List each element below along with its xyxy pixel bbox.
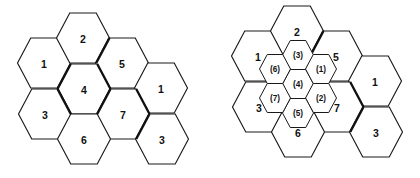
cell-label: 5 [333, 51, 339, 63]
cell-label: (3) [293, 51, 303, 60]
hexagonal-cluster-figure: 125413763 125413763(4)(3)(1)(2)(5)(7)(6) [0, 0, 420, 178]
cell-label: 2 [294, 26, 300, 38]
cell-label: 7 [334, 102, 340, 114]
cell-label: 7 [120, 109, 126, 121]
cell-label: 3 [256, 102, 262, 114]
figure-canvas: 125413763 125413763(4)(3)(1)(2)(5)(7)(6) [0, 0, 420, 178]
cell-label: 1 [255, 51, 261, 63]
cell-label: (7) [270, 94, 280, 103]
cell-label: 3 [159, 134, 165, 146]
cell-label: (6) [270, 65, 280, 74]
cell-label: 6 [81, 134, 87, 146]
cell-label: 4 [81, 84, 87, 96]
cell-label: 6 [295, 127, 301, 139]
cell-label: 1 [41, 58, 47, 70]
cell-label: 5 [119, 58, 125, 70]
cell-label: (1) [316, 65, 326, 74]
cell-label: 3 [42, 109, 48, 121]
cell-label: 1 [158, 83, 164, 95]
cell-label: 3 [373, 127, 379, 139]
cell-label: 2 [80, 33, 86, 45]
cell-label: (5) [293, 109, 303, 118]
cell-label: (2) [316, 94, 326, 103]
cell-label: 1 [372, 76, 378, 88]
cell-label: (4) [293, 80, 303, 89]
